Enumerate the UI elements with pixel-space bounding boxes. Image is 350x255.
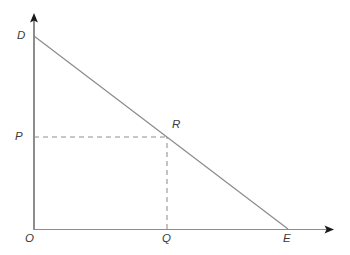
label-point-d: D [17, 30, 26, 42]
demand-line-de [34, 36, 288, 229]
label-point-p: P [15, 131, 23, 143]
label-point-o: O [25, 233, 34, 245]
label-point-e: E [283, 233, 291, 245]
label-point-q: Q [162, 233, 171, 245]
demand-curve-figure: D P R O Q E [0, 0, 350, 255]
label-point-r: R [172, 119, 181, 131]
